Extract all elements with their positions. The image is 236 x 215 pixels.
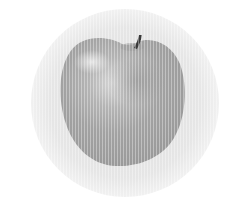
stem-cavity [120,43,144,51]
apple-highlight [74,50,110,74]
apple-illustration [0,0,236,215]
apple-image [0,0,236,215]
